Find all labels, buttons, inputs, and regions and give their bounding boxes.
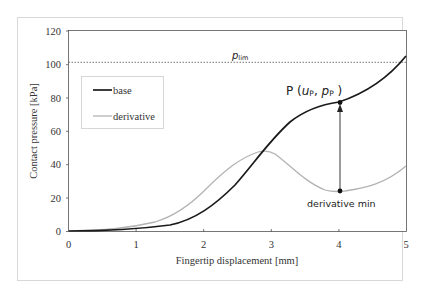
derivative-min-marker	[338, 189, 343, 194]
svg-text:0: 0	[56, 226, 61, 237]
x-axis-title: Fingertip displacement [mm]	[176, 255, 298, 266]
legend-label-derivative: derivative	[113, 111, 155, 122]
svg-text:5: 5	[403, 239, 408, 250]
legend: base derivative	[82, 77, 164, 129]
svg-text:4: 4	[336, 239, 342, 250]
svg-text:2: 2	[201, 239, 206, 250]
point-P-marker	[338, 100, 343, 105]
svg-text:100: 100	[45, 59, 61, 70]
svg-text:80: 80	[51, 93, 62, 104]
svg-text:0: 0	[66, 239, 71, 250]
svg-text:120: 120	[45, 26, 61, 37]
y-axis-title: Contact pressure [kPa]	[28, 83, 39, 179]
derivative-min-label: derivative min	[307, 198, 376, 209]
chart: 0 20 40 60 80 100 120 0 1 2 3 4 5 Finger…	[0, 0, 437, 295]
svg-text:3: 3	[269, 239, 274, 250]
svg-text:40: 40	[51, 159, 62, 170]
svg-text:1: 1	[133, 239, 138, 250]
svg-text:60: 60	[51, 126, 62, 137]
svg-text:20: 20	[51, 193, 62, 204]
point-P-label: P (uP, pP )	[286, 84, 342, 98]
legend-label-base: base	[113, 85, 132, 96]
